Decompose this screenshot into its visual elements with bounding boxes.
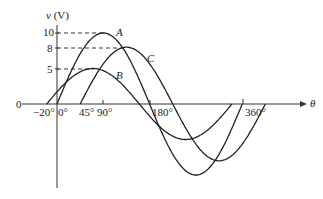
- x-tick-neg20: −20°: [33, 107, 55, 118]
- curve-b-label: B: [116, 70, 123, 81]
- y-axis-unit: (V): [54, 9, 69, 21]
- y-tick-10: 10: [43, 27, 54, 38]
- x-tick-0: 0°: [58, 107, 68, 118]
- y-tick-5: 5: [47, 64, 53, 75]
- x-axis-arrow-icon: [300, 101, 307, 107]
- y-tick-8: 8: [47, 43, 53, 54]
- x-axis-label: θ: [310, 98, 315, 109]
- x-tick-45: 45°: [79, 107, 94, 118]
- origin-label: 0: [16, 99, 22, 110]
- x-tick-360: 360°: [245, 107, 266, 118]
- x-tick-90: 90°: [97, 107, 112, 118]
- y-axis-label: v (V): [46, 10, 69, 21]
- y-axis-var: v: [46, 9, 51, 21]
- x-tick-180: 180°: [152, 107, 173, 118]
- curve-a-label: A: [116, 27, 123, 38]
- curve-c-label: C: [147, 53, 154, 64]
